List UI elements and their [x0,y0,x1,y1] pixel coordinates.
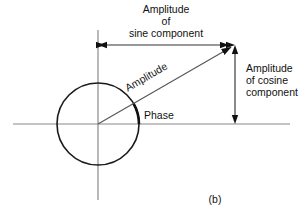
cosine-amplitude-label-line3: component [246,86,298,98]
sine-amplitude-label-line3: sine component [129,27,203,39]
phasor-figure: Amplitude of sine component Amplitude of… [0,0,307,215]
phase-label: Phase [144,109,174,121]
cosine-amplitude-label-line1: Amplitude [246,62,293,74]
cosine-dimension-up-arrowhead [232,45,238,54]
sine-amplitude-label-line2: of [162,15,171,27]
amplitude-vector-label: Amplitude [123,60,170,94]
cosine-dimension-down-arrowhead [232,115,238,124]
sine-dimension-left-arrowhead [98,42,107,48]
figure-caption: (b) [209,193,222,205]
phase-arc [134,104,140,125]
phasor-diagram-canvas: Amplitude of sine component Amplitude of… [0,0,307,215]
sine-amplitude-label-line1: Amplitude [143,3,190,15]
cosine-amplitude-label-line2: of cosine [246,74,288,86]
